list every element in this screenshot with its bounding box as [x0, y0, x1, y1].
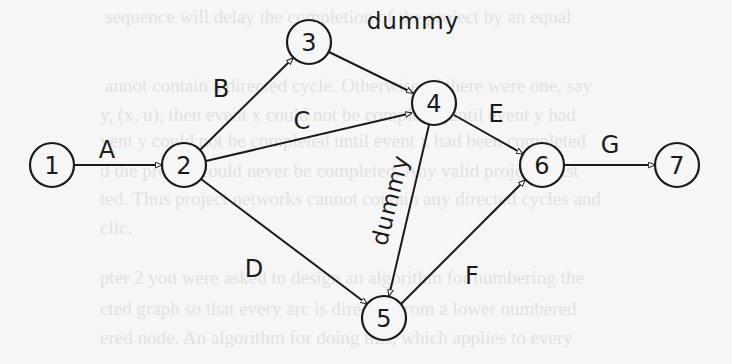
edge-label-F: F — [465, 262, 479, 290]
edge-label-dummy-3-4: dummy — [367, 8, 460, 34]
node-1: 1 — [30, 143, 74, 187]
edge-label-C: C — [294, 107, 311, 135]
node-6: 6 — [520, 143, 564, 187]
edge-label-G: G — [601, 131, 620, 159]
node-5: 5 — [362, 296, 406, 340]
svg-text:1: 1 — [44, 152, 59, 180]
edge-B — [200, 58, 293, 150]
edge-label-E: E — [488, 100, 503, 128]
node-7: 7 — [655, 143, 699, 187]
node-3: 3 — [287, 20, 331, 64]
edge-label-dummy-4-5: dummy — [366, 152, 414, 248]
svg-text:3: 3 — [301, 29, 316, 57]
svg-text:2: 2 — [176, 152, 191, 180]
edge-label-A: A — [99, 136, 116, 164]
svg-text:7: 7 — [669, 152, 684, 180]
edge-F — [401, 180, 525, 304]
edge-label-D: D — [245, 255, 263, 283]
edge-D — [201, 179, 367, 304]
svg-text:6: 6 — [534, 152, 549, 180]
node-4: 4 — [412, 81, 456, 125]
edge-dummy-3-4 — [329, 52, 413, 93]
node-2: 2 — [162, 143, 206, 187]
svg-text:4: 4 — [426, 90, 441, 118]
network-diagram: A B C D dummy E dummy F G 1 2 3 4 5 6 7 — [0, 0, 732, 364]
edge-label-B: B — [213, 75, 229, 103]
svg-text:5: 5 — [376, 305, 391, 333]
